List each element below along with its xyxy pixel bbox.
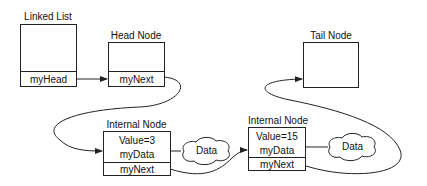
internal-node-1-title: Internal Node xyxy=(103,119,170,130)
internal-node-2-box: Value=15 myData myNext xyxy=(248,127,306,171)
head-node-box: myNext xyxy=(108,42,165,87)
internal-node-1-box: Value=3 myData myNext xyxy=(103,131,171,176)
tail-node-box xyxy=(303,42,359,88)
internal-node-2-title: Internal Node xyxy=(248,115,306,126)
linked-list-box: myHead xyxy=(20,24,77,87)
head-my-next-field: myNext xyxy=(109,74,164,85)
node-2-value: Value=15 xyxy=(249,131,305,142)
node-1-my-next: myNext xyxy=(104,164,170,175)
head-node-title: Head Node xyxy=(108,30,164,41)
cloud-2-label: Data xyxy=(342,141,362,152)
node-2-my-data: myData xyxy=(249,145,305,156)
node-1-my-data: myData xyxy=(104,149,170,160)
node-1-value: Value=3 xyxy=(104,135,170,146)
my-head-field: myHead xyxy=(21,74,76,85)
cloud-1-label: Data xyxy=(196,145,216,156)
tail-node-title: Tail Node xyxy=(303,30,359,41)
linked-list-title: Linked List xyxy=(20,11,76,22)
node-2-my-next: myNext xyxy=(249,159,305,170)
